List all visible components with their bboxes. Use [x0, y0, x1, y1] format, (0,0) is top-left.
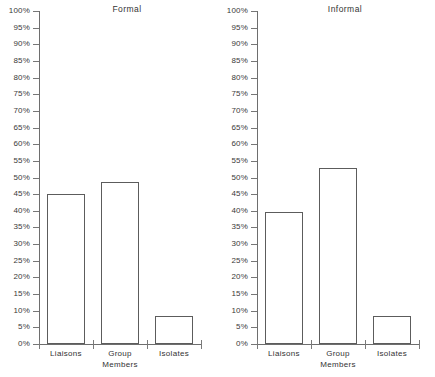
y-axis-tick-35 — [33, 227, 39, 228]
y-axis-label-100: 100% — [0, 7, 30, 15]
y-axis-label-65: 65% — [0, 124, 30, 132]
y-axis-tick-10 — [251, 311, 257, 312]
bar-chart-figure: Formal 0%5%10%15%20%25%30%35%40%45%50%55… — [0, 0, 435, 377]
y-axis-label-25: 25% — [218, 257, 248, 265]
y-axis-label-90: 90% — [0, 40, 30, 48]
y-axis-label-60: 60% — [218, 140, 248, 148]
y-axis-tick-60 — [33, 144, 39, 145]
y-axis-label-20: 20% — [0, 273, 30, 281]
y-axis-tick-30 — [33, 244, 39, 245]
y-axis-tick-80 — [251, 78, 257, 79]
y-axis-tick-20 — [251, 277, 257, 278]
y-axis-label-70: 70% — [218, 107, 248, 115]
y-axis-label-55: 55% — [0, 157, 30, 165]
y-axis-tick-45 — [33, 194, 39, 195]
y-axis-tick-5 — [33, 327, 39, 328]
x-label-group-members-formal: Group Members — [93, 349, 147, 370]
y-axis-label-85: 85% — [218, 57, 248, 65]
y-axis-tick-100 — [33, 11, 39, 12]
y-axis-label-20: 20% — [218, 273, 248, 281]
y-axis-tick-55 — [33, 161, 39, 162]
y-axis-label-70: 70% — [0, 107, 30, 115]
y-axis-tick-95 — [33, 28, 39, 29]
bar-formal-group-members — [101, 182, 139, 344]
panel-title-informal: Informal — [260, 4, 430, 14]
y-axis-tick-65 — [251, 128, 257, 129]
category-separator-3 — [419, 340, 420, 349]
x-label-isolates-formal: Isolates — [147, 349, 201, 360]
y-axis-label-5: 5% — [218, 323, 248, 331]
y-axis-label-40: 40% — [218, 207, 248, 215]
y-axis-label-65: 65% — [218, 124, 248, 132]
y-axis-label-0: 0% — [0, 340, 30, 348]
y-axis-label-50: 50% — [218, 174, 248, 182]
panel-formal: Formal 0%5%10%15%20%25%30%35%40%45%50%55… — [0, 0, 217, 377]
y-axis-tick-85 — [251, 61, 257, 62]
x-axis-line-informal — [257, 344, 419, 345]
category-separator-0 — [257, 340, 258, 349]
y-axis-tick-70 — [33, 111, 39, 112]
x-label-group-members-informal: Group Members — [311, 349, 365, 370]
y-axis-label-10: 10% — [218, 307, 248, 315]
y-axis-tick-25 — [251, 261, 257, 262]
y-axis-tick-35 — [251, 227, 257, 228]
bar-formal-isolates — [155, 316, 193, 344]
y-axis-label-50: 50% — [0, 174, 30, 182]
y-axis-tick-75 — [33, 94, 39, 95]
y-axis-line-formal — [39, 11, 40, 345]
y-axis-label-55: 55% — [218, 157, 248, 165]
y-axis-label-80: 80% — [218, 74, 248, 82]
y-axis-tick-50 — [251, 178, 257, 179]
y-axis-tick-50 — [33, 178, 39, 179]
y-axis-label-15: 15% — [0, 290, 30, 298]
y-axis-label-100: 100% — [218, 7, 248, 15]
y-axis-tick-85 — [33, 61, 39, 62]
x-label-group-line2: Members — [93, 360, 147, 371]
y-axis-label-35: 35% — [218, 223, 248, 231]
y-axis-label-45: 45% — [218, 190, 248, 198]
x-label-liaisons-informal: Liaisons — [257, 349, 311, 360]
y-axis-label-90: 90% — [218, 40, 248, 48]
y-axis-tick-70 — [251, 111, 257, 112]
y-axis-tick-90 — [33, 44, 39, 45]
x-label-group-line1: Group — [93, 349, 147, 360]
y-axis-label-15: 15% — [218, 290, 248, 298]
y-axis-line-informal — [257, 11, 258, 345]
y-axis-label-30: 30% — [218, 240, 248, 248]
x-label-group-line1: Group — [311, 349, 365, 360]
y-axis-label-75: 75% — [0, 90, 30, 98]
y-axis-label-0: 0% — [218, 340, 248, 348]
y-axis-tick-25 — [33, 261, 39, 262]
x-label-isolates-informal: Isolates — [365, 349, 419, 360]
y-axis-label-80: 80% — [0, 74, 30, 82]
y-axis-tick-90 — [251, 44, 257, 45]
y-axis-label-85: 85% — [0, 57, 30, 65]
y-axis-label-60: 60% — [0, 140, 30, 148]
category-separator-0 — [39, 340, 40, 349]
y-axis-tick-55 — [251, 161, 257, 162]
y-axis-tick-20 — [33, 277, 39, 278]
y-axis-tick-15 — [251, 294, 257, 295]
y-axis-label-45: 45% — [0, 190, 30, 198]
y-axis-tick-95 — [251, 28, 257, 29]
y-axis-tick-75 — [251, 94, 257, 95]
bar-informal-liaisons — [265, 212, 303, 344]
y-axis-label-30: 30% — [0, 240, 30, 248]
y-axis-label-35: 35% — [0, 223, 30, 231]
y-axis-label-5: 5% — [0, 323, 30, 331]
bar-informal-group-members — [319, 168, 357, 344]
y-axis-tick-15 — [33, 294, 39, 295]
y-axis-label-10: 10% — [0, 307, 30, 315]
category-separator-1 — [311, 340, 312, 349]
y-axis-tick-60 — [251, 144, 257, 145]
y-axis-tick-65 — [33, 128, 39, 129]
y-axis-label-95: 95% — [0, 24, 30, 32]
bar-formal-liaisons — [47, 194, 85, 344]
y-axis-tick-45 — [251, 194, 257, 195]
y-axis-tick-40 — [251, 211, 257, 212]
x-label-liaisons-formal: Liaisons — [39, 349, 93, 360]
y-axis-tick-40 — [33, 211, 39, 212]
category-separator-3 — [201, 340, 202, 349]
y-axis-label-25: 25% — [0, 257, 30, 265]
y-axis-label-95: 95% — [218, 24, 248, 32]
